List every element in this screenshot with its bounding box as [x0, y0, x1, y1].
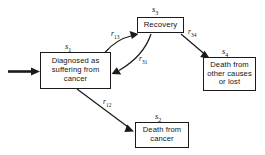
- state-tag-s2: s2: [155, 111, 161, 123]
- edge-r34: [181, 34, 210, 59]
- state-tag-s4: s4: [222, 46, 228, 58]
- rate-tag-r31-subscript: 31: [142, 59, 147, 65]
- state-tag-s2-subscript: 2: [158, 117, 161, 123]
- rate-tag-r13-subscript: 13: [114, 34, 119, 40]
- rate-tag-r12-subscript: 12: [106, 102, 111, 108]
- state-node-s1[interactable]: Diagnosed as suffering from cancer: [40, 52, 111, 89]
- state-tag-s3: s3: [152, 4, 158, 16]
- state-node-s4[interactable]: Death from other causes or lost: [203, 57, 256, 91]
- rate-tag-r12: r12: [103, 97, 111, 108]
- state-tag-s1-subscript: 1: [68, 47, 71, 53]
- state-node-s2[interactable]: Death from cancer: [135, 122, 189, 148]
- state-tag-s4-subscript: 4: [225, 52, 228, 58]
- rate-tag-r34-subscript: 34: [191, 32, 196, 38]
- state-tag-s1: s1: [65, 41, 71, 53]
- rate-tag-r31: r31: [139, 54, 147, 65]
- state-node-s3-recovery[interactable]: Recovery: [137, 17, 184, 33]
- state-tag-s3-subscript: 3: [155, 10, 158, 16]
- rate-tag-r13: r13: [111, 29, 119, 40]
- rate-tag-r34: r34: [188, 27, 196, 38]
- edge-r12: [77, 89, 134, 132]
- edge-entry-arrow: [8, 67, 40, 75]
- state-transition-diagram: Diagnosed as suffering from cancer Recov…: [0, 0, 265, 155]
